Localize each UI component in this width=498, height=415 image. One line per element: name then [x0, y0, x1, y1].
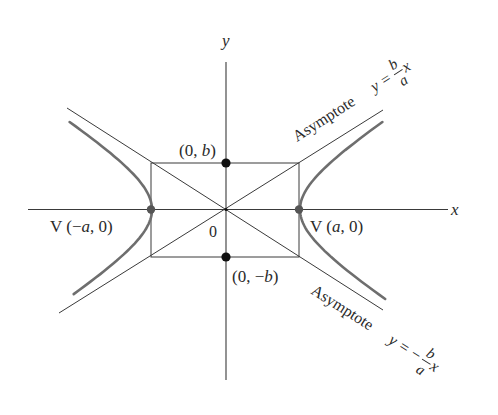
co-vertex-top-point — [221, 158, 230, 167]
co-vertex-bottom-label: (0, −b) — [232, 267, 278, 286]
vertex-left-point — [147, 205, 155, 213]
svg-text:Asymptote: Asymptote — [289, 92, 358, 145]
asymptote-upper-label: Asymptote y = b a x — [285, 50, 419, 153]
vertex-left-label: V (−a, 0) — [50, 217, 113, 236]
vertex-right-label: V (a, 0) — [310, 217, 363, 236]
x-axis-label: x — [450, 200, 459, 219]
hyperbola-left-branch — [70, 122, 152, 294]
origin-label: 0 — [209, 223, 217, 240]
svg-text:b: b — [386, 55, 401, 73]
asymptote-positive-slope — [59, 110, 383, 313]
svg-text:Asymptote: Asymptote — [308, 281, 377, 334]
y-axis-label: y — [220, 31, 230, 50]
co-vertex-bottom-point — [221, 252, 230, 261]
svg-text:a: a — [413, 361, 428, 379]
svg-text:=: = — [377, 69, 394, 88]
co-vertex-top-label: (0, b) — [179, 141, 216, 160]
hyperbola-right-branch — [300, 122, 385, 299]
origin-point — [224, 208, 227, 211]
hyperbola-diagram: y x 0 (0, b) (0, −b) V (−a, 0) V (a, 0) … — [0, 0, 498, 415]
vertex-right-point — [295, 205, 303, 213]
